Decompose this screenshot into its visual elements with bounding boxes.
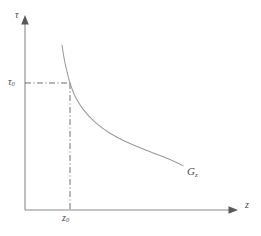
y-axis-label: τ bbox=[15, 10, 19, 20]
z-zero-label: z0 bbox=[62, 213, 69, 223]
curve-gz-path bbox=[62, 45, 183, 166]
y-axis-arrowhead bbox=[21, 15, 29, 25]
x-axis-arrowhead bbox=[229, 206, 239, 214]
x-axis-label: z bbox=[245, 200, 249, 210]
tau-zero-subscript: 0 bbox=[12, 80, 15, 87]
tau-zero-label: τ0 bbox=[8, 77, 15, 87]
plot-canvas bbox=[0, 0, 261, 236]
curve-gz-label: Gz bbox=[187, 166, 198, 177]
figure-container: τ z τ0 z0 Gz bbox=[0, 0, 261, 236]
curve-gz-base: G bbox=[187, 165, 195, 177]
curve-gz-subscript: z bbox=[195, 171, 198, 179]
z-zero-subscript: 0 bbox=[66, 216, 69, 223]
